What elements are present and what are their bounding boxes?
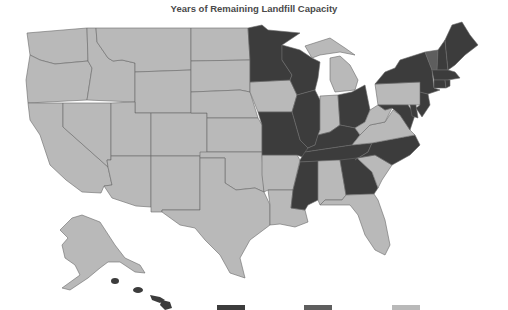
legend-swatch-medium [304,305,332,310]
state-fl [320,194,390,255]
state-az [104,156,151,207]
state-mi [305,38,355,58]
state-hi-big [160,300,172,310]
us-map [0,0,508,310]
state-ak [60,215,145,290]
state-me [445,22,478,70]
state-mi-lower [330,56,358,92]
state-ct [434,80,446,88]
state-ma [432,70,460,80]
state-wy [135,70,191,113]
state-sd [191,60,250,92]
state-nm [151,156,200,212]
legend-swatch-light [392,305,420,310]
map-figure: Years of Remaining Landfill Capacity [0,0,508,310]
state-ia [250,80,297,112]
state-co [151,113,207,156]
state-ri [445,80,450,88]
state-ks [207,118,262,152]
state-hi-kauai [111,278,119,284]
state-hi-oahu [133,287,143,293]
legend-swatch-dark [217,305,245,310]
state-pa [375,82,425,105]
state-nd [191,28,250,61]
